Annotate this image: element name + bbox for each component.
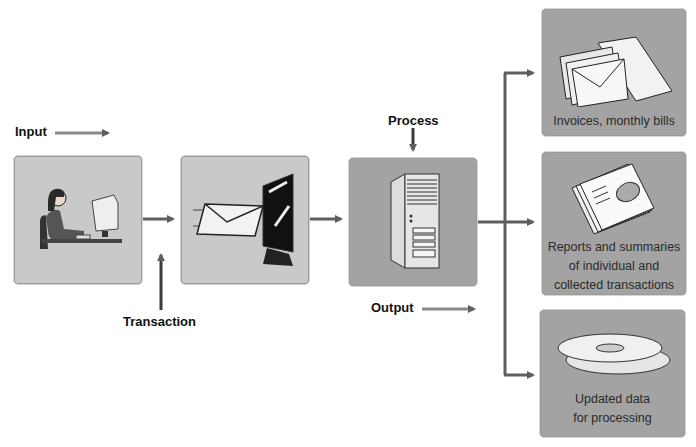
input-label: Input bbox=[15, 124, 47, 139]
transaction-stage-box bbox=[180, 155, 310, 285]
server-tower-icon bbox=[387, 168, 447, 278]
output-reports-box: Reports and summaries of individual and … bbox=[541, 151, 687, 296]
output-updated-data-caption: Updated data for processing bbox=[540, 390, 685, 428]
person-at-computer-icon bbox=[32, 181, 132, 256]
process-label: Process bbox=[388, 113, 439, 128]
optical-discs-icon bbox=[554, 330, 672, 380]
envelope-entering-monitor-icon bbox=[193, 166, 303, 276]
process-stage-box bbox=[348, 157, 478, 287]
envelopes-icon bbox=[552, 27, 676, 107]
output-reports-caption: Reports and summaries of individual and … bbox=[542, 238, 686, 295]
output-updated-data-box: Updated data for processing bbox=[539, 309, 686, 438]
output-label: Output bbox=[371, 300, 414, 315]
input-stage-box bbox=[13, 155, 143, 285]
output-invoices-box: Invoices, monthly bills bbox=[541, 8, 687, 137]
transaction-label: Transaction bbox=[123, 314, 196, 329]
report-documents-icon bbox=[570, 162, 660, 234]
output-invoices-caption: Invoices, monthly bills bbox=[542, 112, 686, 131]
